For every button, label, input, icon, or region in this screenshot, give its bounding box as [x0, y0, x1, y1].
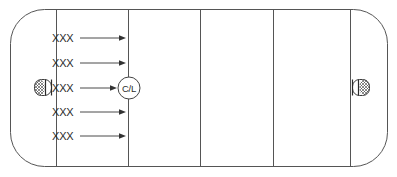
goal-left	[35, 80, 52, 96]
player-group-label: XXX	[52, 32, 74, 44]
player-group-label: XXX	[52, 130, 74, 142]
hockey-rink-diagram: XXX XXX XXX XXX XXX	[0, 0, 397, 177]
player-group-label: XXX	[52, 82, 74, 94]
goal-right-mesh	[360, 80, 370, 96]
goal-left-mesh	[35, 80, 45, 96]
player-group-label: XXX	[52, 57, 74, 69]
center-line-marker-label: C/L	[122, 83, 136, 94]
rink-canvas: XXX XXX XXX XXX XXX	[0, 0, 397, 177]
player-group-label: XXX	[52, 106, 74, 118]
center-line-marker: C/L	[118, 77, 140, 99]
goal-right	[353, 80, 370, 96]
